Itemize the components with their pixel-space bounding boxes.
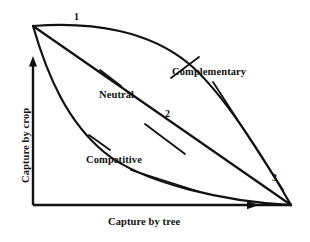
figure-canvas: 1 2 3 Complementary Neutral Competitive … [0, 0, 310, 242]
y-axis-label: Capture by crop [20, 108, 31, 183]
regime-label-neutral: Neutral [99, 89, 134, 100]
curve-tag-3: 3 [272, 172, 277, 183]
y-axis-arrowhead [29, 56, 37, 67]
regime-label-competitive: Competitive [86, 154, 142, 165]
curve-tag-2: 2 [165, 108, 170, 119]
x-axis-label: Capture by tree [108, 216, 180, 227]
regime-label-complementary: Complementary [172, 66, 246, 77]
leader-line-competitive-lower [131, 170, 200, 192]
diagram-svg [0, 0, 310, 242]
leader-line-neutral [100, 70, 121, 86]
curve-tag-1: 1 [74, 11, 79, 22]
